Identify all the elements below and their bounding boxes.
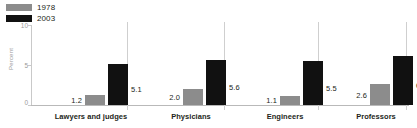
bars-physicians: 2.0 5.6 bbox=[183, 25, 226, 105]
bar-1978-lawyers-and-judges: 1.2 bbox=[85, 95, 105, 105]
bar-1978-professors: 2.6 bbox=[370, 84, 390, 105]
bar-value-2003-physicians: 5.6 bbox=[229, 83, 240, 92]
y-tick-label-5: 5 bbox=[12, 62, 28, 69]
bar-value-1978-physicians: 2.0 bbox=[169, 93, 180, 102]
bars-lawyers-and-judges: 1.2 5.1 bbox=[85, 25, 128, 105]
bar-1978-engineers: 1.1 bbox=[280, 96, 300, 105]
legend-label-1978: 1978 bbox=[37, 4, 55, 12]
bar-2003-lawyers-and-judges: 5.1 bbox=[108, 64, 128, 105]
legend-swatch-2003 bbox=[6, 15, 32, 22]
bar-value-2003-engineers: 5.5 bbox=[326, 84, 337, 93]
y-tick-label-10: 10 bbox=[12, 22, 28, 29]
y-axis-label: Percent bbox=[8, 39, 14, 79]
category-label-physicians: Physicians bbox=[143, 112, 239, 121]
legend-label-2003: 2003 bbox=[37, 15, 55, 23]
bars-professors: 2.6 6.1 bbox=[370, 25, 413, 105]
bar-2003-engineers: 5.5 bbox=[303, 61, 323, 105]
category-label-engineers: Engineers bbox=[238, 112, 332, 121]
bar-chart: 1978 2003 Percent 10 5 0 1.2 5.1 bbox=[0, 0, 417, 128]
bar-value-1978-professors: 2.6 bbox=[356, 91, 367, 100]
bar-value-1978-lawyers-and-judges: 1.2 bbox=[71, 96, 82, 105]
category-label-lawyers-and-judges: Lawyers and judges bbox=[31, 112, 151, 121]
legend-swatch-1978 bbox=[6, 4, 32, 11]
bar-2003-professors: 6.1 bbox=[393, 56, 413, 105]
plot-area: 1.2 5.1 2.0 5.6 1.1 bbox=[31, 25, 411, 105]
category-label-professors: Professors bbox=[330, 112, 417, 121]
chart-baseline bbox=[31, 105, 409, 106]
bars-engineers: 1.1 5.5 bbox=[280, 25, 323, 105]
bar-value-2003-lawyers-and-judges: 5.1 bbox=[131, 85, 142, 94]
bar-value-1978-engineers: 1.1 bbox=[266, 96, 277, 105]
y-tick-label-0: 0 bbox=[12, 99, 28, 106]
bar-1978-physicians: 2.0 bbox=[183, 89, 203, 105]
bar-2003-physicians: 5.6 bbox=[206, 60, 226, 105]
legend-item-1978: 1978 bbox=[6, 3, 55, 12]
